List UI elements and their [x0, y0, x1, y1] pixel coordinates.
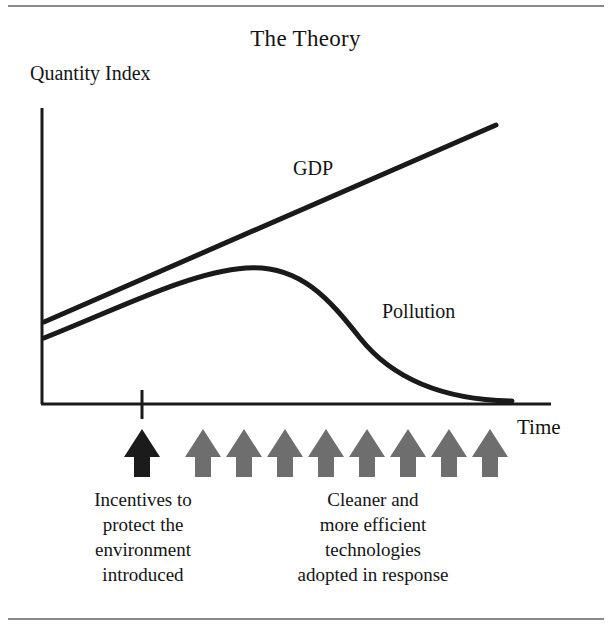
caption-technologies-line-2: more efficient — [248, 512, 498, 537]
caption-incentives-line-4: introduced — [52, 562, 234, 587]
pollution-curve — [44, 268, 512, 401]
arrow-incentives-black — [124, 429, 160, 477]
gdp-line — [44, 125, 496, 322]
caption-technologies-line-4: adopted in response — [248, 562, 498, 587]
series-label-gdp: GDP — [293, 157, 333, 180]
caption-incentives-line-3: environment — [52, 537, 234, 562]
caption-technologies-line-3: technologies — [248, 537, 498, 562]
caption-incentives-line-1: Incentives to — [52, 487, 234, 512]
caption-incentives: Incentives to protect the environment in… — [52, 487, 234, 587]
caption-technologies-line-1: Cleaner and — [248, 487, 498, 512]
caption-technologies: Cleaner and more efficient technologies … — [248, 487, 498, 587]
theory-figure: The Theory Quantity Index Time GDP Pollu… — [0, 0, 611, 636]
caption-incentives-line-2: protect the — [52, 512, 234, 537]
arrow-group-technologies — [185, 429, 508, 477]
series-label-pollution: Pollution — [382, 300, 455, 323]
